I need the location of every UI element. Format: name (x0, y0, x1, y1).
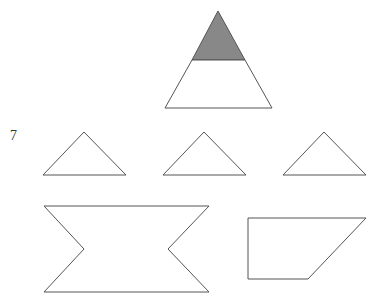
option-triangle-2 (163, 132, 246, 175)
bowtie-shape (44, 206, 209, 292)
trapezoid-shape (248, 218, 366, 279)
option-triangle-1 (43, 132, 126, 175)
option-triangle-3 (283, 132, 366, 175)
main-triangle-shaded-top (192, 11, 245, 60)
figure-canvas (0, 0, 379, 306)
main-triangle-unshaded-bottom (165, 60, 272, 108)
